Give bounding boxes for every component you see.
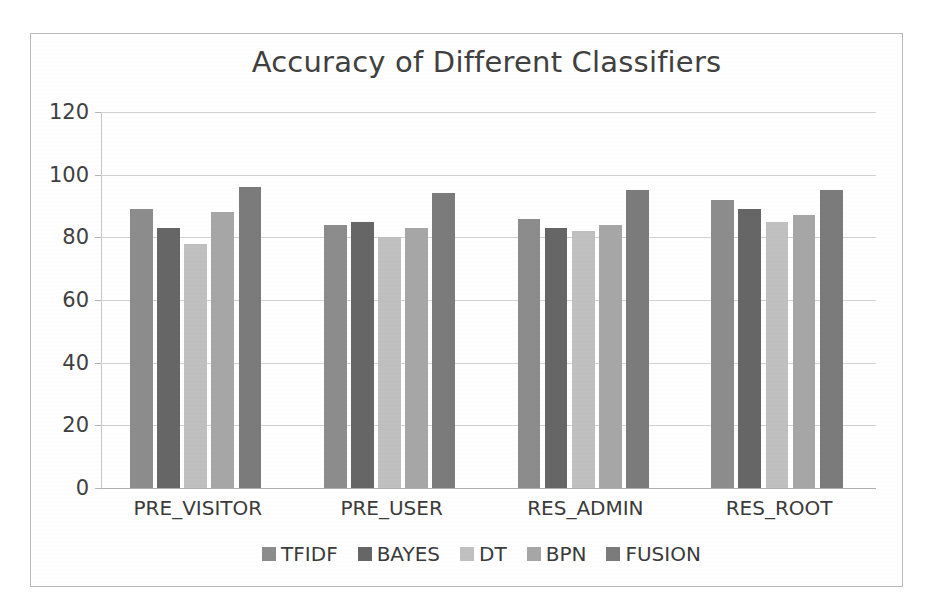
legend-item-bpn[interactable]: BPN	[527, 542, 587, 566]
bar-bpn-res-admin[interactable]	[599, 225, 622, 488]
bar-tfidf-pre-visitor[interactable]	[130, 209, 153, 488]
bar-bayes-res-root[interactable]	[738, 209, 761, 488]
bar-bayes-pre-user[interactable]	[351, 222, 374, 488]
bar-fusion-pre-visitor[interactable]	[239, 187, 262, 488]
legend-label-bpn: BPN	[546, 542, 587, 566]
legend-item-bayes[interactable]: BAYES	[358, 542, 440, 566]
bar-tfidf-res-admin[interactable]	[518, 219, 541, 488]
bar-bpn-pre-user[interactable]	[405, 228, 428, 488]
legend-item-dt[interactable]: DT	[460, 542, 507, 566]
bar-group-res-admin	[518, 112, 654, 488]
y-tick-label-120: 120	[49, 100, 89, 124]
y-tick-label-0: 0	[76, 476, 89, 500]
bar-dt-res-root[interactable]	[766, 222, 789, 488]
chart-frame: Accuracy of Different Classifiers 020406…	[30, 33, 903, 587]
chart-legend: TFIDFBAYESDTBPNFUSION	[31, 542, 902, 566]
legend-label-fusion: FUSION	[625, 542, 700, 566]
legend-swatch-icon-bpn	[527, 547, 541, 561]
legend-swatch-icon-bayes	[358, 547, 372, 561]
bar-dt-res-admin[interactable]	[572, 231, 595, 488]
bar-bpn-res-root[interactable]	[793, 215, 816, 488]
category-label-pre-user: PRE_USER	[340, 496, 442, 520]
y-tick-label-80: 80	[62, 225, 89, 249]
y-tick-label-20: 20	[62, 413, 89, 437]
legend-label-tfidf: TFIDF	[281, 542, 338, 566]
legend-swatch-icon-dt	[460, 547, 474, 561]
bar-fusion-res-admin[interactable]	[626, 190, 649, 488]
legend-label-bayes: BAYES	[377, 542, 440, 566]
y-tick-mark-0	[95, 488, 101, 489]
bar-dt-pre-visitor[interactable]	[184, 244, 207, 488]
y-tick-label-60: 60	[62, 288, 89, 312]
bar-bayes-pre-visitor[interactable]	[157, 228, 180, 488]
bar-bpn-pre-visitor[interactable]	[211, 212, 234, 488]
legend-label-dt: DT	[479, 542, 507, 566]
bar-dt-pre-user[interactable]	[378, 237, 401, 488]
legend-swatch-icon-tfidf	[262, 547, 276, 561]
bar-group-res-root	[711, 112, 847, 488]
chart-title: Accuracy of Different Classifiers	[31, 45, 902, 79]
category-label-res-admin: RES_ADMIN	[527, 496, 643, 520]
category-label-pre-visitor: PRE_VISITOR	[134, 496, 263, 520]
legend-item-tfidf[interactable]: TFIDF	[262, 542, 338, 566]
bar-tfidf-res-root[interactable]	[711, 200, 734, 488]
bar-fusion-pre-user[interactable]	[432, 193, 455, 488]
bar-bayes-res-admin[interactable]	[545, 228, 568, 488]
y-tick-label-40: 40	[62, 351, 89, 375]
legend-item-fusion[interactable]: FUSION	[606, 542, 700, 566]
bar-group-pre-user	[324, 112, 460, 488]
plot-area: 020406080100120	[101, 112, 876, 488]
y-tick-label-100: 100	[49, 163, 89, 187]
bar-fusion-res-root[interactable]	[820, 190, 843, 488]
category-label-res-root: RES_ROOT	[726, 496, 833, 520]
bar-tfidf-pre-user[interactable]	[324, 225, 347, 488]
bar-group-pre-visitor	[130, 112, 266, 488]
bars-layer	[101, 112, 876, 488]
x-axis-category-labels: PRE_VISITORPRE_USERRES_ADMINRES_ROOT	[101, 496, 876, 526]
legend-swatch-icon-fusion	[606, 547, 620, 561]
gridline-0	[101, 488, 876, 489]
